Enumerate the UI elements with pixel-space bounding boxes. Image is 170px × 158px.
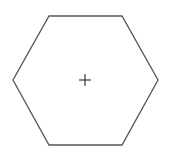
diagram-canvas bbox=[0, 0, 170, 158]
hexagon-diagram bbox=[0, 0, 170, 158]
